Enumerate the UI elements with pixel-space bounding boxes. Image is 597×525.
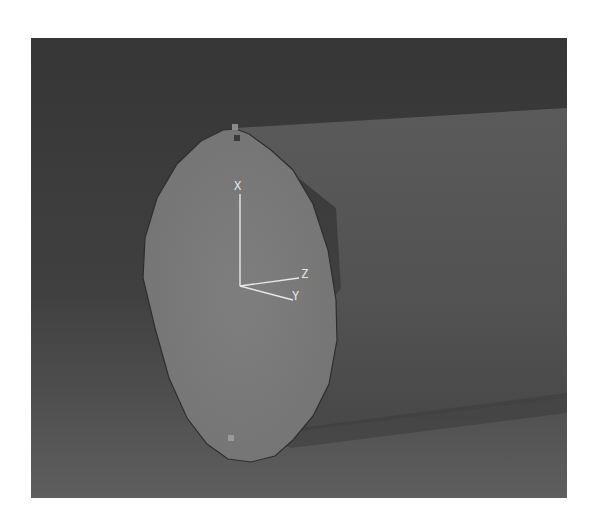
- graphics-viewport[interactable]: X Z Y: [31, 38, 567, 498]
- y-axis-label: Y: [292, 290, 299, 302]
- model-scene: [31, 38, 567, 498]
- x-axis-label: X: [234, 180, 241, 192]
- z-axis-label: Z: [301, 268, 308, 280]
- node-marker-bottom: [228, 435, 234, 441]
